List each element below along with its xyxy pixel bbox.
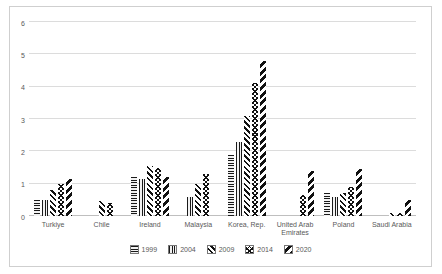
x-axis-labels: TurkiyeChileIrelandMalaysiaKorea, Rep.Un… bbox=[29, 219, 416, 237]
bar-slot bbox=[91, 22, 97, 216]
x-axis-label: Turkiye bbox=[29, 219, 77, 237]
y-axis-tick-label: 6 bbox=[21, 19, 25, 26]
bar-2014 bbox=[252, 83, 258, 216]
horizontal-stripes-icon bbox=[130, 245, 139, 254]
legend-label: 1999 bbox=[142, 246, 158, 253]
bar-slot bbox=[83, 22, 89, 216]
bar-group bbox=[223, 22, 271, 216]
bar-slot bbox=[228, 22, 234, 216]
bar-slot bbox=[308, 22, 314, 216]
legend-label: 2009 bbox=[219, 246, 235, 253]
bar-2014 bbox=[300, 195, 306, 216]
bar-slot bbox=[284, 22, 290, 216]
bar-slot bbox=[260, 22, 266, 216]
bar-2020 bbox=[163, 177, 169, 216]
bar-group bbox=[319, 22, 367, 216]
bar-slot bbox=[115, 22, 121, 216]
bar-slot bbox=[373, 22, 379, 216]
bar-2014 bbox=[107, 203, 113, 216]
wide-diagonal-icon bbox=[284, 245, 293, 254]
bar-slot bbox=[405, 22, 411, 216]
bar-group bbox=[29, 22, 77, 216]
bar-slot bbox=[324, 22, 330, 216]
bar-2014 bbox=[58, 184, 64, 216]
bar-slot bbox=[179, 22, 185, 216]
bar-slot bbox=[34, 22, 40, 216]
bar-1999 bbox=[131, 177, 137, 216]
bar-2020 bbox=[260, 61, 266, 216]
y-axis-tick-label: 1 bbox=[21, 181, 25, 188]
bar-group bbox=[174, 22, 222, 216]
bar-2014 bbox=[348, 187, 354, 216]
bar-slot bbox=[397, 22, 403, 216]
bar-group bbox=[271, 22, 319, 216]
x-axis-label: Korea, Rep. bbox=[223, 219, 271, 237]
bar-slot bbox=[292, 22, 298, 216]
bar-2009 bbox=[389, 213, 395, 216]
bar-2014 bbox=[155, 168, 161, 217]
bar-2009 bbox=[195, 184, 201, 216]
bar-slot bbox=[203, 22, 209, 216]
bar-slot bbox=[211, 22, 217, 216]
bar-2020 bbox=[66, 179, 72, 216]
bar-2004 bbox=[236, 142, 242, 216]
bar-slot bbox=[50, 22, 56, 216]
bar-slot bbox=[139, 22, 145, 216]
bar-2014 bbox=[203, 174, 209, 216]
bar-2009 bbox=[50, 190, 56, 216]
x-axis-label: Chile bbox=[77, 219, 125, 237]
bar-groups bbox=[29, 22, 416, 216]
bar-slot bbox=[163, 22, 169, 216]
legend-item: 2004 bbox=[168, 245, 196, 254]
bar-2009 bbox=[147, 166, 153, 216]
y-axis-tick-label: 4 bbox=[21, 84, 25, 91]
legend-label: 2004 bbox=[180, 246, 196, 253]
bar-2004 bbox=[42, 200, 48, 216]
bar-slot bbox=[187, 22, 193, 216]
bar-slot bbox=[244, 22, 250, 216]
y-axis-tick-label: 3 bbox=[21, 116, 25, 123]
y-axis-tick-label: 2 bbox=[21, 148, 25, 155]
legend-item: 2009 bbox=[207, 245, 235, 254]
thin-diagonal-icon bbox=[207, 245, 216, 254]
bar-2009 bbox=[340, 193, 346, 216]
bar-slot bbox=[195, 22, 201, 216]
bar-group bbox=[126, 22, 174, 216]
bar-slot bbox=[381, 22, 387, 216]
bar-slot bbox=[42, 22, 48, 216]
bar-slot bbox=[348, 22, 354, 216]
bar-2004 bbox=[187, 197, 193, 216]
x-axis-label: United Arab Emirates bbox=[271, 219, 319, 237]
legend-label: 2020 bbox=[296, 246, 312, 253]
bar-2014 bbox=[397, 213, 403, 216]
bar-slot bbox=[389, 22, 395, 216]
bar-2004 bbox=[139, 179, 145, 216]
y-axis-tick-label: 0 bbox=[21, 213, 25, 220]
bar-slot bbox=[300, 22, 306, 216]
bar-1999 bbox=[228, 155, 234, 216]
bar-slot bbox=[107, 22, 113, 216]
bar-1999 bbox=[324, 193, 330, 216]
y-axis-tick-label: 5 bbox=[21, 51, 25, 58]
plot-area: 0123456 bbox=[29, 22, 416, 216]
bar-slot bbox=[147, 22, 153, 216]
bar-slot bbox=[131, 22, 137, 216]
x-axis-label: Malaysia bbox=[174, 219, 222, 237]
bar-2004 bbox=[332, 197, 338, 216]
bar-2009 bbox=[244, 116, 250, 216]
bar-slot bbox=[99, 22, 105, 216]
bar-group bbox=[368, 22, 416, 216]
legend-item: 2020 bbox=[284, 245, 312, 254]
bar-2020 bbox=[308, 171, 314, 216]
legend-item: 2014 bbox=[245, 245, 273, 254]
legend: 19992004200920142020 bbox=[10, 245, 431, 254]
bar-slot bbox=[332, 22, 338, 216]
bar-slot bbox=[155, 22, 161, 216]
bar-slot bbox=[340, 22, 346, 216]
x-axis-label: Ireland bbox=[126, 219, 174, 237]
bar-slot bbox=[66, 22, 72, 216]
bar-group bbox=[77, 22, 125, 216]
bar-1999 bbox=[34, 200, 40, 216]
bar-slot bbox=[252, 22, 258, 216]
bar-2020 bbox=[356, 169, 362, 216]
